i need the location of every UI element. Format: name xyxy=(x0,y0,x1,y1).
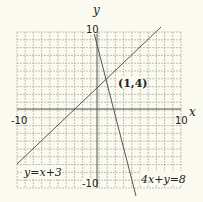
line-4x-plus-y-equals-8 xyxy=(93,29,136,196)
x-axis-label: x xyxy=(189,105,196,119)
coordinate-plane: y x 10 -10 -10 10 y=x+3 4x+y=8 (1,4) xyxy=(0,0,203,202)
y-max-tick-label: 10 xyxy=(86,24,99,35)
y-axis-label: y xyxy=(92,3,100,17)
line1-label: y=x+3 xyxy=(23,166,62,179)
y-min-tick-label: -10 xyxy=(82,178,98,189)
intersection-label: (1,4) xyxy=(118,77,148,90)
line2-label: 4x+y=8 xyxy=(140,173,186,186)
x-max-tick-label: 10 xyxy=(175,115,188,126)
grid xyxy=(17,32,181,188)
x-min-tick-label: -10 xyxy=(11,115,27,126)
